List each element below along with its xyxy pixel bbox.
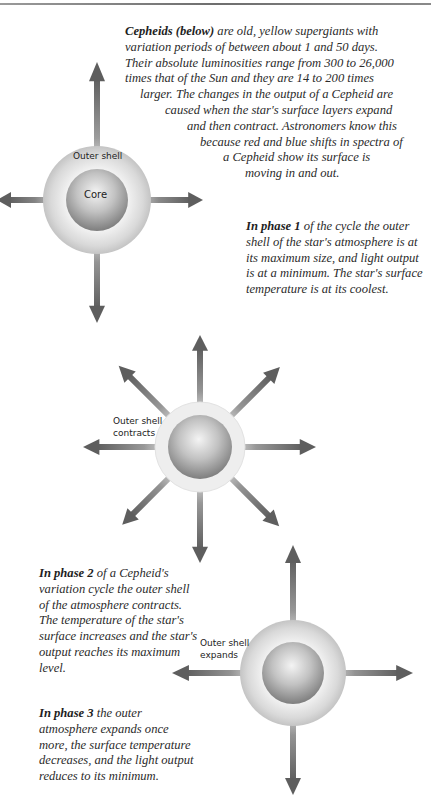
phase2-star [83, 335, 316, 563]
phase3-star [172, 545, 413, 795]
phase3-shell-label: Outer shell expands [200, 637, 249, 661]
phase2-shell-label: Outer shell contracts [113, 415, 162, 439]
phase1-core-label: Core [84, 189, 107, 201]
phase2-description: In phase 2 of a Cepheid's variation cycl… [39, 566, 199, 677]
intro-paragraph: Cepheids (below) are old, yellow supergi… [125, 24, 425, 182]
phase1-shell-label: Outer shell [73, 150, 122, 162]
phase1-description: In phase 1 of the cycle the outer shell … [246, 219, 426, 298]
phase3-description: In phase 3 the outer atmosphere expands … [39, 706, 199, 785]
